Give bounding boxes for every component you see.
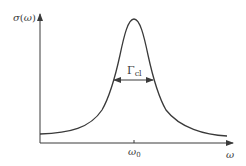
lorentzian-curve [40, 19, 227, 136]
omega0-tick-label: ω0 [128, 146, 141, 159]
y-axis-label: σ(ω) [13, 12, 36, 23]
width-label: Γcl [127, 64, 142, 78]
x-axis-label: ω [226, 149, 234, 160]
lorentzian-diagram: Γcl ω0 ω σ(ω) [0, 0, 246, 166]
